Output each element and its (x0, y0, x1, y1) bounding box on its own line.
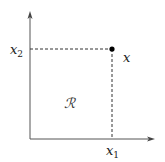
x-axis-label: x1 (106, 143, 119, 160)
region-label: ℛ (64, 95, 76, 111)
diagram-canvas: x2 x1 x ℛ (0, 0, 165, 162)
point-marker-icon (109, 46, 114, 51)
coordinate-diagram: x2 x1 x ℛ (0, 0, 165, 162)
y-axis-label: x2 (10, 42, 23, 59)
point-label: x (123, 50, 131, 65)
